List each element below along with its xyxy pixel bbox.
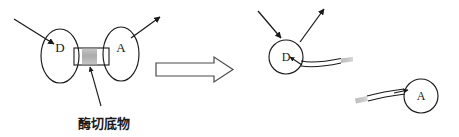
- figure-canvas: D A 酶切底物 D: [0, 0, 459, 137]
- cleavage-site-block: [82, 49, 97, 65]
- acceptor-label-right: A: [417, 89, 426, 103]
- donor-strand-rail-bottom: [301, 63, 341, 67]
- right-excitation-arrow-icon: [258, 11, 281, 38]
- acceptor-label-left: A: [116, 40, 126, 55]
- acceptor-strand-gray-tip: [355, 96, 368, 103]
- substrate-caption: 酶切底物: [78, 116, 130, 131]
- left-excitation-arrow-icon: [14, 19, 54, 44]
- substrate-leader-line: [90, 67, 101, 106]
- left-panel-group: D A 酶切底物: [14, 17, 160, 131]
- right-panel-group: D A: [258, 9, 438, 113]
- right-emission-arrow-icon: [300, 9, 324, 42]
- reaction-arrow-group: [156, 57, 233, 82]
- donor-label-left: D: [55, 40, 64, 55]
- donor-strand-rail-top: [301, 59, 341, 63]
- acceptor-strand-rail-bottom: [368, 94, 405, 101]
- donor-ellipse-left: [41, 29, 79, 83]
- donor-label-right: D: [282, 50, 291, 64]
- diagram-svg: D A 酶切底物 D: [0, 0, 459, 137]
- left-emission-arrow-icon: [131, 17, 160, 38]
- reaction-block-arrow-icon: [156, 57, 233, 82]
- donor-strand-attachment-arrow: [290, 57, 302, 65]
- donor-strand-gray-tip: [341, 57, 353, 63]
